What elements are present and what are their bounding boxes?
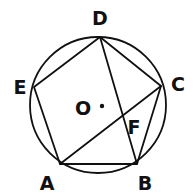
circumscribed-circle	[30, 37, 166, 173]
label-d: D	[92, 7, 108, 29]
label-f: F	[128, 116, 141, 138]
label-e: E	[14, 76, 27, 98]
label-b: B	[138, 172, 152, 193]
center-point-dot	[100, 104, 104, 108]
geometry-diagram: D E C O F A B	[0, 0, 196, 193]
label-o: O	[75, 97, 91, 119]
label-c: C	[171, 73, 185, 95]
label-a: A	[40, 172, 55, 193]
diagonal-bd	[100, 37, 137, 164]
